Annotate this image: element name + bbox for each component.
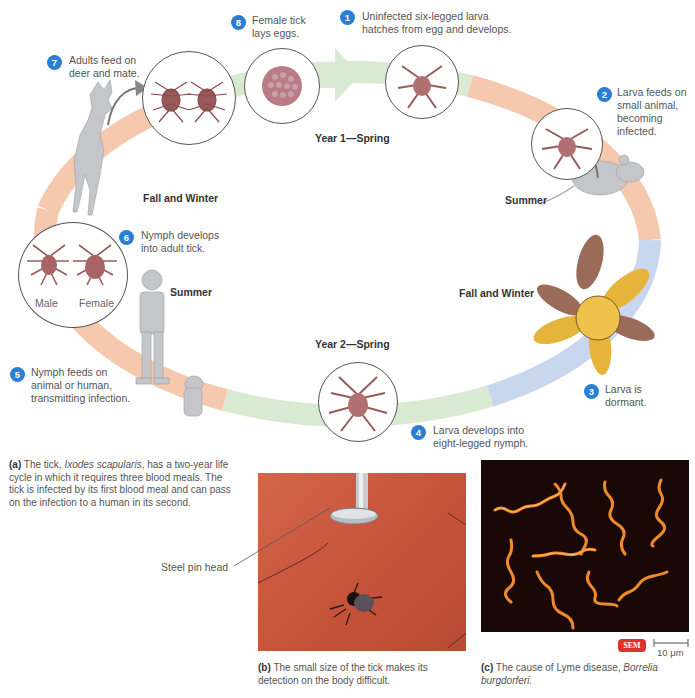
season-year2-spring: Year 2—Spring: [315, 338, 390, 350]
circle-adults-mating: [142, 51, 236, 145]
circle-larva-feeding: [531, 108, 603, 180]
circle-eggs: [244, 48, 320, 124]
caption-c: (c) The cause of Lyme disease, Borrelia …: [481, 662, 691, 687]
circle-adults: Male Female: [18, 222, 128, 328]
dog-icon: [184, 376, 203, 416]
step-text-2: Larva feeds on small animal, becoming in…: [617, 86, 686, 138]
caption-a: (a) The tick, Ixodes scapularis, has a t…: [9, 459, 239, 509]
tick-photo-icon: [330, 583, 382, 625]
step-text-6: Nymph develops into adult tick.: [141, 229, 219, 255]
larva-tick-icon: [532, 109, 602, 179]
circle-larva-hatch: [385, 45, 459, 119]
season-fall-winter-right: Fall and Winter: [459, 287, 534, 299]
scale-bar-label: 10 μm: [657, 647, 684, 658]
two-adult-ticks-icon: [143, 52, 235, 144]
step-badge-4: 4: [411, 425, 426, 440]
step-text-3: Larva is dormant.: [605, 383, 646, 409]
step-text-7: Adults feed on deer and mate.: [69, 54, 140, 80]
caption-b: (b) The small size of the tick makes its…: [258, 662, 468, 687]
step-text-8: Female tick lays eggs.: [252, 14, 306, 40]
male-label: Male: [35, 297, 58, 309]
season-fall-winter-left: Fall and Winter: [143, 192, 218, 204]
nymph-tick-icon: [319, 363, 397, 441]
season-summer-left: Summer: [170, 286, 212, 298]
step-text-1: Uninfected six-legged larva hatches from…: [362, 10, 511, 36]
step-badge-8: 8: [231, 15, 246, 30]
female-label: Female: [79, 297, 114, 309]
step-badge-3: 3: [584, 384, 599, 399]
step-badge-2: 2: [597, 87, 612, 102]
season-summer-right: Summer: [505, 194, 547, 206]
step-badge-6: 6: [119, 230, 134, 245]
step-badge-7: 7: [47, 55, 62, 70]
season-year1-spring: Year 1—Spring: [315, 132, 390, 144]
larva-tick-icon: [386, 46, 458, 118]
step-badge-5: 5: [10, 367, 25, 382]
pin-head-label: Steel pin head: [161, 561, 228, 573]
step-text-5: Nymph feeds on animal or human, transmit…: [31, 366, 130, 405]
photo-borrelia-sem: [481, 460, 689, 632]
circle-nymph: [318, 362, 398, 442]
step-badge-1: 1: [340, 10, 355, 25]
pin-head-pointer-line: [230, 500, 340, 570]
step-text-4: Larva develops into eight-legged nymph.: [433, 424, 528, 450]
spirochete-image: [481, 460, 689, 632]
egg-mass-icon: [245, 49, 319, 123]
sem-badge: SEM: [618, 639, 646, 652]
male-female-ticks-icon: [19, 223, 127, 303]
